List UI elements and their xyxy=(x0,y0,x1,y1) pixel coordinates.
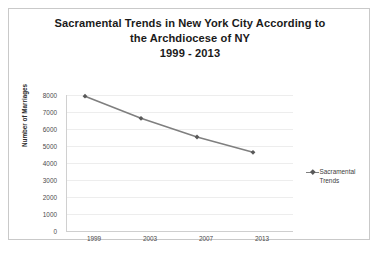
plot-area xyxy=(66,95,293,231)
y-tick-label-1000: 1000 xyxy=(23,211,57,218)
legend-label-line-1: Sacramental xyxy=(320,168,371,177)
x-tick-label-2007: 2007 xyxy=(184,235,228,243)
y-tick-label-7000: 7000 xyxy=(23,109,57,116)
y-tick-label-6000: 6000 xyxy=(23,126,57,133)
legend-marker-icon xyxy=(306,168,319,177)
gridline-3000 xyxy=(66,180,293,181)
y-tick-label-2000: 2000 xyxy=(23,194,57,201)
gridline-4000 xyxy=(66,163,293,164)
legend-label: Sacramental Trends xyxy=(319,168,370,185)
chart-legend: Sacramental Trends xyxy=(306,168,370,185)
chart-title-line-3: 1999 - 2013 xyxy=(27,46,353,61)
x-tick-label-2003: 2003 xyxy=(128,235,172,243)
x-tick-label-1999: 1999 xyxy=(72,235,116,243)
legend-label-line-2: Trends xyxy=(320,177,371,186)
gridline-7000 xyxy=(66,112,293,113)
gridline-5000 xyxy=(66,146,293,147)
gridline-1000 xyxy=(66,214,293,215)
y-tick-label-8000: 8000 xyxy=(23,92,57,99)
legend-entry-sacramental-trends: Sacramental Trends xyxy=(306,168,370,185)
x-tick-label-2013: 2013 xyxy=(240,235,284,243)
x-axis-line xyxy=(66,231,293,232)
y-tick-label-0: 0 xyxy=(23,228,57,235)
gridline-2000 xyxy=(66,197,293,198)
y-axis-line xyxy=(66,95,67,232)
y-tick-label-5000: 5000 xyxy=(23,143,57,150)
y-tick-label-4000: 4000 xyxy=(23,160,57,167)
chart-frame: Sacramental Trends in New York City Acco… xyxy=(8,8,370,240)
chart-title-line-2: the Archdiocese of NY xyxy=(27,31,353,46)
chart-figure: Sacramental Trends in New York City Acco… xyxy=(0,0,379,257)
chart-title-line-1: Sacramental Trends in New York City Acco… xyxy=(27,16,353,31)
chart-title: Sacramental Trends in New York City Acco… xyxy=(27,16,353,62)
gridline-8000 xyxy=(66,95,293,96)
gridline-6000 xyxy=(66,129,293,130)
y-tick-label-3000: 3000 xyxy=(23,177,57,184)
